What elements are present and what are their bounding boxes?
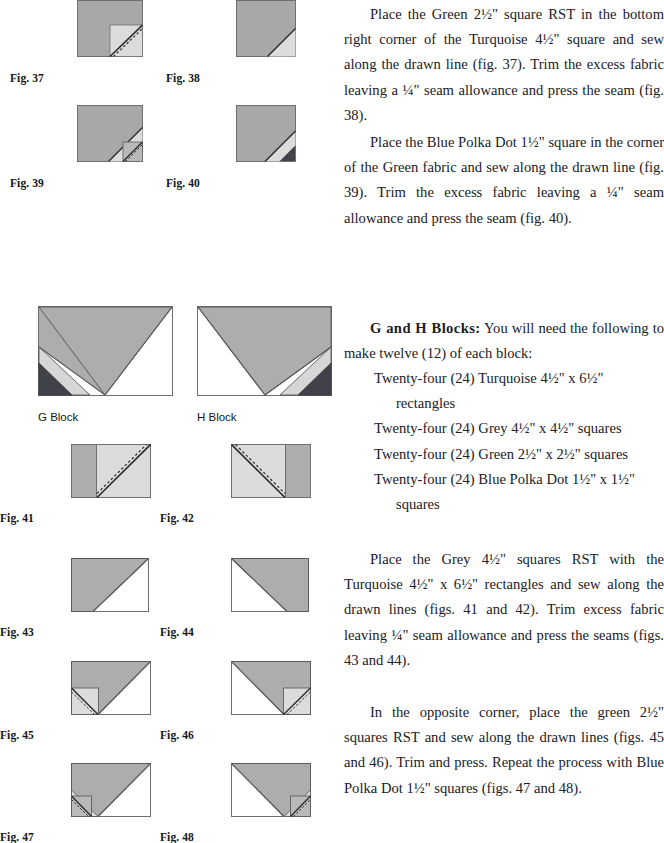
- fig37-artwork: [77, 0, 143, 57]
- list-item-continuation: rectangles: [374, 391, 664, 416]
- fig46-label: Fig. 46: [160, 729, 311, 741]
- fig42-label: Fig. 42: [160, 512, 311, 524]
- paragraph-green-square: Place the Green 2½" square RST in the bo…: [344, 2, 664, 128]
- figure-fig37: Fig. 37: [77, 0, 143, 84]
- fig46-artwork: [231, 661, 311, 715]
- fig43-artwork: [71, 558, 149, 612]
- list-item-main: Twenty-four (24) Turquoise 4½" x 6½": [374, 370, 603, 386]
- figure-fig42: Fig. 42: [231, 444, 311, 524]
- gh-blocks-materials-list: Twenty-four (24) Turquoise 4½" x 6½" rec…: [344, 366, 664, 517]
- fig39-label: Fig. 39: [10, 177, 143, 189]
- figure-column: Fig. 37 Fig. 38: [0, 0, 340, 839]
- figure-gblock: G Block: [38, 306, 173, 423]
- figure-fig38: Fig. 38: [236, 0, 296, 84]
- fig40-label: Fig. 40: [166, 177, 296, 189]
- fig40-artwork: [236, 105, 296, 162]
- fig45-label: Fig. 45: [0, 729, 151, 741]
- text-column: Place the Green 2½" square RST in the bo…: [344, 0, 664, 839]
- paragraph-opposite-corner: In the opposite corner, place the green …: [344, 700, 664, 801]
- fig44-artwork: [231, 558, 309, 612]
- gh-blocks-heading-paragraph: G and H Blocks: You will need the follow…: [344, 316, 664, 366]
- list-item: Twenty-four (24) Green 2½" x 2½" squares: [344, 442, 664, 467]
- list-item: Twenty-four (24) Blue Polka Dot 1½" x 1½…: [344, 467, 664, 517]
- hblock-artwork: [197, 306, 332, 396]
- fig47-label: Fig. 47: [0, 831, 151, 843]
- figure-fig47: Fig. 47: [71, 763, 151, 843]
- gblock-artwork: [38, 306, 173, 396]
- fig39-artwork: [77, 105, 143, 162]
- figure-fig46: Fig. 46: [231, 661, 311, 741]
- figure-fig45: Fig. 45: [71, 661, 151, 741]
- paragraph-grey-squares: Place the Grey 4½" squares RST with the …: [344, 547, 664, 673]
- fig47-artwork: [71, 763, 151, 817]
- list-item: Twenty-four (24) Turquoise 4½" x 6½" rec…: [344, 366, 664, 416]
- fig48-label: Fig. 48: [160, 831, 311, 843]
- fig41-artwork: [71, 444, 151, 498]
- gh-blocks-heading: G and H Blocks:: [344, 320, 481, 336]
- list-item-continuation: squares: [374, 492, 664, 517]
- list-item: Twenty-four (24) Grey 4½" x 4½" squares: [344, 416, 664, 441]
- fig44-label: Fig. 44: [160, 626, 309, 638]
- figure-fig40: Fig. 40: [236, 105, 296, 189]
- list-item-main: Twenty-four (24) Grey 4½" x 4½" squares: [374, 420, 622, 436]
- fig45-artwork: [71, 661, 151, 715]
- fig41-label: Fig. 41: [0, 512, 151, 524]
- paragraph-blue-polka-dot: Place the Blue Polka Dot 1½" square in t…: [344, 130, 664, 231]
- figure-fig41: Fig. 41: [71, 444, 151, 524]
- fig43-label: Fig. 43: [0, 626, 149, 638]
- fig38-label: Fig. 38: [166, 72, 296, 84]
- list-item-main: Twenty-four (24) Blue Polka Dot 1½" x 1½…: [374, 471, 635, 487]
- list-item-main: Twenty-four (24) Green 2½" x 2½" squares: [374, 446, 628, 462]
- fig38-artwork: [236, 0, 296, 57]
- figure-fig48: Fig. 48: [231, 763, 311, 843]
- figure-fig43: Fig. 43: [71, 558, 149, 638]
- figure-hblock: H Block: [197, 306, 332, 423]
- fig42-artwork: [231, 444, 311, 498]
- fig37-label: Fig. 37: [10, 72, 143, 84]
- fig48-artwork: [231, 763, 311, 817]
- figure-fig39: Fig. 39: [77, 105, 143, 189]
- gblock-label: G Block: [38, 411, 173, 423]
- hblock-label: H Block: [197, 411, 332, 423]
- figure-fig44: Fig. 44: [231, 558, 309, 638]
